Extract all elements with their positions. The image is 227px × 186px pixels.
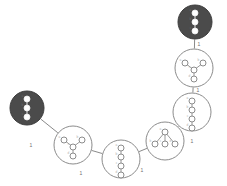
inner-vertex-label: b xyxy=(22,103,24,107)
inner-vertex xyxy=(172,141,178,147)
inner-vertex-label: b xyxy=(77,135,79,139)
inner-vertex xyxy=(192,10,198,16)
edge-weight-label: 1 xyxy=(191,138,194,144)
inner-vertex xyxy=(118,145,124,151)
inner-vertex xyxy=(189,107,195,113)
diagram-canvas: 111111 abcabcdabcdabcdabcdabcdabc xyxy=(0,0,227,186)
inner-vertex-label: a xyxy=(59,135,61,139)
inner-vertex-label: d xyxy=(189,74,191,78)
graph-node-n2[interactable]: abcd xyxy=(54,126,92,164)
graph-node-n7[interactable]: abc xyxy=(178,5,212,39)
inner-vertex xyxy=(191,67,197,73)
edge-weight-label: 1 xyxy=(198,41,201,47)
inner-vertex-label: b xyxy=(150,139,152,143)
inner-vertex-label: b xyxy=(190,17,192,21)
inner-vertex-label: d xyxy=(170,139,172,143)
nodes-layer: abcabcdabcdabcdabcdabcdabc xyxy=(10,5,213,178)
inner-vertex xyxy=(118,172,124,178)
inner-vertex xyxy=(79,137,85,143)
inner-vertex xyxy=(24,114,30,120)
graph-node-n5[interactable]: abcd xyxy=(173,93,211,131)
inner-vertex-label: a xyxy=(22,94,24,98)
inner-vertex xyxy=(189,125,195,131)
inner-vertex-label: b xyxy=(187,105,189,109)
inner-vertex xyxy=(24,96,30,102)
graph-node-n6[interactable]: abcd xyxy=(175,49,213,87)
inner-vertex xyxy=(189,98,195,104)
inner-vertex-label: b xyxy=(198,58,200,62)
inner-vertex xyxy=(152,141,158,147)
edge-weight-label: 1 xyxy=(197,87,200,93)
graph-node-n4[interactable]: abcd xyxy=(146,122,184,160)
inner-vertex xyxy=(192,19,198,25)
inner-vertex xyxy=(191,76,197,82)
inner-vertex-label: b xyxy=(116,152,118,156)
graph-node-n1[interactable]: abc xyxy=(10,91,44,125)
inner-vertex xyxy=(162,141,168,147)
inner-vertex xyxy=(118,154,124,160)
inner-vertex-label: a xyxy=(160,127,162,131)
inner-vertex-label: d xyxy=(187,123,189,127)
inner-vertex xyxy=(192,28,198,34)
inner-vertex xyxy=(70,144,76,150)
inner-vertex xyxy=(70,153,76,159)
inner-vertex xyxy=(162,129,168,135)
inner-vertex xyxy=(200,60,206,66)
edge-weight-label: 1 xyxy=(30,142,33,148)
inner-vertex xyxy=(118,163,124,169)
inner-vertex-label: a xyxy=(116,143,118,147)
edge-weight-label: 1 xyxy=(141,167,144,173)
inner-vertex-label: a xyxy=(190,8,192,12)
inner-vertex-label: a xyxy=(180,58,182,62)
inner-vertex-label: a xyxy=(187,96,189,100)
inner-vertex xyxy=(189,116,195,122)
inner-vertex xyxy=(61,137,67,143)
edge-weight-label: 1 xyxy=(80,170,83,176)
graph-edge xyxy=(139,148,147,151)
graph-diagram: 111111 abcabcdabcdabcdabcdabcdabc xyxy=(0,0,227,186)
inner-vertex xyxy=(24,105,30,111)
graph-edge xyxy=(92,150,103,153)
graph-edge xyxy=(41,119,58,133)
graph-node-n3[interactable]: abcd xyxy=(102,140,140,178)
inner-vertex-label: d xyxy=(116,170,118,174)
inner-vertex xyxy=(182,60,188,66)
inner-vertex-label: d xyxy=(68,151,70,155)
